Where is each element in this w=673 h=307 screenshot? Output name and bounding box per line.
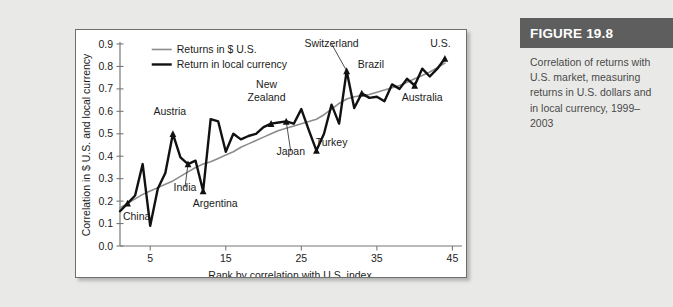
figure-root: 0.00.10.20.30.40.50.60.70.80.9515253545R… xyxy=(0,0,673,307)
data-point-marker xyxy=(169,130,176,137)
y-tick-label: 0.5 xyxy=(98,127,113,139)
annotation-label: Japan xyxy=(276,145,305,157)
y-tick-label: 0.0 xyxy=(98,240,113,252)
series-line-local xyxy=(120,59,445,226)
y-tick-label: 0.6 xyxy=(98,105,113,117)
y-tick-label: 0.4 xyxy=(98,150,113,162)
annotation-label: Zealand xyxy=(248,91,286,103)
y-tick-label: 0.1 xyxy=(98,217,113,229)
y-tick-label: 0.9 xyxy=(98,38,113,50)
annotation-label: Brazil xyxy=(358,58,384,70)
x-tick-label: 25 xyxy=(295,252,307,264)
annotation-label: New xyxy=(256,78,277,90)
data-point-marker xyxy=(343,67,350,74)
correlation-line-chart: 0.00.10.20.30.40.50.60.70.80.9515253545R… xyxy=(76,30,466,277)
annotation-label: Argentina xyxy=(193,197,238,209)
figure-number-header: FIGURE 19.8 xyxy=(520,18,673,48)
annotation-label: China xyxy=(123,210,151,222)
annotation-label: U.S. xyxy=(430,37,450,49)
annotation-label: India xyxy=(174,181,197,193)
annotation-label: Australia xyxy=(402,91,443,103)
figure-info-block: FIGURE 19.8 Correlation of returns with … xyxy=(520,18,673,131)
legend-label-usd: Returns in $ U.S. xyxy=(177,43,257,55)
data-point-marker xyxy=(200,187,207,194)
series-line-usd xyxy=(120,63,445,208)
x-axis-title: Rank by correlation with U.S. index xyxy=(208,269,372,277)
data-point-marker xyxy=(358,90,365,97)
x-tick-label: 5 xyxy=(147,252,153,264)
annotation-label: Turkey xyxy=(316,136,348,148)
y-tick-label: 0.8 xyxy=(98,60,113,72)
annotation-label: Austria xyxy=(154,105,187,117)
x-tick-label: 35 xyxy=(371,252,383,264)
figure-caption: Correlation of returns with U.S. market,… xyxy=(520,48,673,131)
chart-panel: 0.00.10.20.30.40.50.60.70.80.9515253545R… xyxy=(75,29,467,278)
y-tick-label: 0.3 xyxy=(98,172,113,184)
x-tick-label: 15 xyxy=(220,252,232,264)
y-tick-label: 0.7 xyxy=(98,82,113,94)
data-point-marker xyxy=(441,55,448,62)
x-tick-label: 45 xyxy=(447,252,459,264)
annotation-label: Switzerland xyxy=(304,37,358,49)
y-tick-label: 0.2 xyxy=(98,195,113,207)
legend-label-local: Return in local currency xyxy=(177,58,288,70)
y-axis-title: Correlation in $ U.S. and local currency xyxy=(80,53,92,236)
